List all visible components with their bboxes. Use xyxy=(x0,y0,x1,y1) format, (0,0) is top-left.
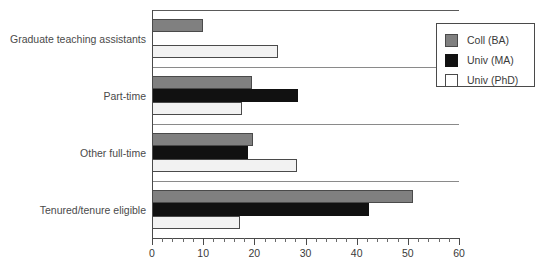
x-tick-minor xyxy=(285,238,286,242)
group-separator xyxy=(152,67,459,68)
x-tick-minor xyxy=(213,238,214,242)
bar-coll-group-2 xyxy=(152,133,253,146)
y-axis-label: Other full-time xyxy=(6,147,152,158)
bar-univma-group-1 xyxy=(152,89,298,102)
x-tick-minor xyxy=(336,238,337,242)
x-tick-minor xyxy=(387,238,388,242)
x-tick-label: 10 xyxy=(197,247,209,259)
x-tick-minor xyxy=(224,238,225,242)
y-axis-labels: Graduate teaching assistantsPart-timeOth… xyxy=(0,0,152,265)
x-tick-label: 50 xyxy=(402,247,414,259)
bar-coll-group-3 xyxy=(152,190,413,203)
x-tick-label: 30 xyxy=(300,247,312,259)
x-tick-minor xyxy=(439,238,440,242)
x-tick-minor xyxy=(162,238,163,242)
bar-coll-group-0 xyxy=(152,19,203,32)
x-tick-minor xyxy=(183,238,184,242)
x-tick-minor xyxy=(172,238,173,242)
x-tick-major xyxy=(408,238,409,245)
x-tick-major xyxy=(357,238,358,245)
plot-area xyxy=(152,10,459,238)
y-axis-label: Graduate teaching assistants xyxy=(6,33,152,44)
legend-label: Univ (MA) xyxy=(467,54,514,66)
legend-item-univphd: Univ (PhD) xyxy=(445,73,518,87)
x-tick-major xyxy=(459,238,460,245)
x-tick-minor xyxy=(275,238,276,242)
x-tick-minor xyxy=(367,238,368,242)
x-tick-minor xyxy=(244,238,245,242)
legend-label: Coll (BA) xyxy=(467,34,509,46)
x-tick-minor xyxy=(428,238,429,242)
x-tick-minor xyxy=(295,238,296,242)
bar-coll-group-1 xyxy=(152,76,252,89)
group-separator xyxy=(152,181,459,182)
x-tick-minor xyxy=(265,238,266,242)
x-tick-minor xyxy=(326,238,327,242)
legend-swatch-icon xyxy=(445,34,458,47)
x-tick-minor xyxy=(316,238,317,242)
x-tick-minor xyxy=(234,238,235,242)
legend-swatch-icon xyxy=(445,54,458,67)
x-tick-minor xyxy=(449,238,450,242)
legend-swatch-icon xyxy=(445,74,458,87)
x-tick-label: 0 xyxy=(149,247,155,259)
bar-univphd-group-3 xyxy=(152,216,240,229)
x-tick-major xyxy=(306,238,307,245)
y-axis-line xyxy=(152,10,153,238)
legend-item-coll: Coll (BA) xyxy=(445,33,509,47)
y-axis-label: Tenured/tenure eligible xyxy=(6,204,152,215)
bar-univma-group-2 xyxy=(152,146,248,159)
bar-univphd-group-1 xyxy=(152,102,242,115)
x-tick-minor xyxy=(398,238,399,242)
legend-label: Univ (PhD) xyxy=(467,74,518,86)
x-tick-minor xyxy=(193,238,194,242)
x-tick-label: 40 xyxy=(351,247,363,259)
bar-univphd-group-2 xyxy=(152,159,297,172)
x-tick-minor xyxy=(346,238,347,242)
bar-univphd-group-0 xyxy=(152,45,278,58)
x-tick-label: 60 xyxy=(453,247,465,259)
bar-chart: Graduate teaching assistantsPart-timeOth… xyxy=(0,0,545,265)
x-tick-major xyxy=(254,238,255,245)
plot-top-border xyxy=(152,10,459,11)
chart-legend: Coll (BA)Univ (MA)Univ (PhD) xyxy=(436,23,535,87)
bar-univma-group-3 xyxy=(152,203,369,216)
x-tick-major xyxy=(152,238,153,245)
y-axis-label: Part-time xyxy=(6,90,152,101)
x-tick-minor xyxy=(418,238,419,242)
x-tick-label: 20 xyxy=(248,247,260,259)
legend-item-univma: Univ (MA) xyxy=(445,53,514,67)
x-tick-minor xyxy=(377,238,378,242)
group-separator xyxy=(152,124,459,125)
x-tick-major xyxy=(203,238,204,245)
